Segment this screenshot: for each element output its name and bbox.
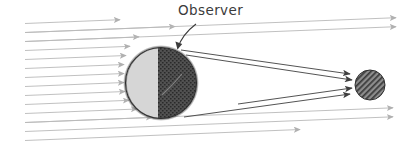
incoming-ray xyxy=(25,92,125,96)
passing-ray-bottom xyxy=(25,108,393,123)
passing-ray-bottom xyxy=(25,130,300,141)
passing-ray-top xyxy=(25,27,396,42)
shadow-ray-bottom-outer xyxy=(184,94,350,117)
small-sphere xyxy=(355,70,385,100)
large-sphere xyxy=(123,45,199,121)
shadow-ray-top-outer xyxy=(181,50,350,74)
incoming-ray xyxy=(25,83,124,87)
incoming-ray xyxy=(25,74,124,78)
incoming-ray xyxy=(25,65,124,69)
incoming-ray xyxy=(25,100,129,104)
ray-diagram-svg xyxy=(0,0,415,147)
incoming-ray xyxy=(25,20,120,24)
incoming-ray xyxy=(25,109,137,114)
incoming-ray xyxy=(25,46,130,50)
shadow-cone-group xyxy=(181,50,352,117)
shadow-ray-top-inner xyxy=(186,55,352,80)
observer-pointer xyxy=(175,24,196,50)
passing-rays-group xyxy=(25,18,396,141)
observer-label: Observer xyxy=(178,4,243,18)
passing-ray-bottom xyxy=(25,117,393,132)
diagram-canvas: Observer xyxy=(0,0,415,147)
incoming-ray xyxy=(25,56,126,60)
passing-ray-top xyxy=(25,18,396,33)
